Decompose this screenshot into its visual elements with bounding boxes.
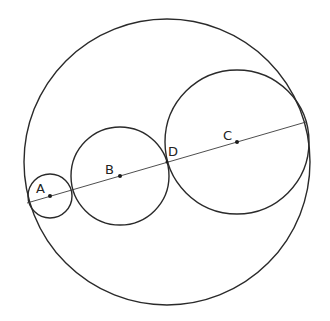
label-d: D xyxy=(168,144,178,159)
label-b: B xyxy=(105,162,114,177)
label-c: C xyxy=(223,128,232,143)
geometry-diagram: A B C D xyxy=(0,0,330,321)
point-c xyxy=(235,140,239,144)
point-b xyxy=(118,174,122,178)
point-d xyxy=(166,161,169,164)
label-a: A xyxy=(36,181,45,196)
point-a xyxy=(48,194,52,198)
